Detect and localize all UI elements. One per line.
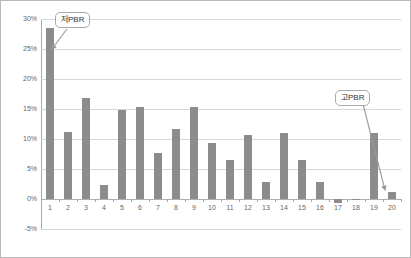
gridline-10	[41, 139, 401, 140]
gridline--5	[41, 229, 401, 230]
x-axis-tick-mark	[131, 199, 132, 202]
y-axis-tick-label: 0%	[9, 195, 37, 203]
bar	[280, 133, 288, 199]
x-axis-tick-mark	[149, 199, 150, 202]
x-axis-tick-label: 16	[311, 203, 329, 213]
x-axis-tick-mark	[185, 199, 186, 202]
x-axis-tick-label: 17	[329, 203, 347, 213]
x-axis-tick-label: 9	[185, 203, 203, 213]
y-axis-tick-label: 15%	[9, 105, 37, 113]
x-axis-tick-label: 7	[149, 203, 167, 213]
bar	[82, 98, 90, 199]
y-axis-tick-label: 5%	[9, 165, 37, 173]
x-axis-tick-mark	[329, 199, 330, 202]
x-axis-tick-label: 2	[59, 203, 77, 213]
x-axis-tick-mark	[275, 199, 276, 202]
x-axis-tick-label: 5	[113, 203, 131, 213]
x-axis-tick-mark	[311, 199, 312, 202]
annotation-label-high-pbr: 고PBR	[335, 90, 370, 106]
x-axis-tick-label: 1	[41, 203, 59, 213]
x-axis-tick-label: 19	[365, 203, 383, 213]
bar	[226, 160, 234, 199]
x-axis-tick-mark	[239, 199, 240, 202]
x-axis-tick-label: 3	[77, 203, 95, 213]
bar	[298, 160, 306, 199]
bar	[118, 110, 126, 199]
x-axis-tick-label: 8	[167, 203, 185, 213]
x-axis-tick-mark	[95, 199, 96, 202]
x-axis-tick-mark	[257, 199, 258, 202]
x-axis-tick-mark	[293, 199, 294, 202]
gridline-25	[41, 49, 401, 50]
x-axis-tick-mark	[383, 199, 384, 202]
bar	[136, 107, 144, 199]
bar	[64, 132, 72, 199]
bar	[370, 133, 378, 199]
bar	[172, 129, 180, 199]
x-axis-tick-mark	[113, 199, 114, 202]
x-axis-tick-label: 6	[131, 203, 149, 213]
x-axis-tick-label: 13	[257, 203, 275, 213]
x-axis-tick-mark	[365, 199, 366, 202]
bar	[388, 192, 396, 199]
x-axis-tick-mark	[347, 199, 348, 202]
x-axis-labels: 1234567891011121314151617181920	[41, 203, 401, 215]
x-axis-tick-label: 11	[221, 203, 239, 213]
gridline-15	[41, 109, 401, 110]
x-axis-tick-label: 10	[203, 203, 221, 213]
x-axis-tick-mark	[77, 199, 78, 202]
y-axis-tick-label: 10%	[9, 135, 37, 143]
y-axis-tick-label: 30%	[9, 15, 37, 23]
bar	[262, 182, 270, 199]
gridline-30	[41, 19, 401, 20]
bar	[244, 135, 252, 199]
x-axis-tick-mark	[401, 199, 402, 202]
x-axis-tick-mark	[203, 199, 204, 202]
chart-container: 30%25%20%15%10%5%0%-5% 12345678910111213…	[0, 0, 411, 258]
y-axis-labels: 30%25%20%15%10%5%0%-5%	[5, 19, 37, 229]
gridline-5	[41, 169, 401, 170]
gridline-20	[41, 79, 401, 80]
x-axis-tick-mark	[167, 199, 168, 202]
x-axis-tick-mark	[221, 199, 222, 202]
y-axis-tick-label: 20%	[9, 75, 37, 83]
x-axis-tick-label: 12	[239, 203, 257, 213]
x-axis-tick-mark	[41, 199, 42, 202]
bar	[208, 143, 216, 199]
y-axis-tick-label: -5%	[9, 225, 37, 233]
bar	[316, 182, 324, 199]
plot-area	[41, 19, 401, 229]
bar	[100, 185, 108, 199]
x-axis-tick-mark	[59, 199, 60, 202]
x-axis-tick-label: 15	[293, 203, 311, 213]
x-axis-tick-label: 20	[383, 203, 401, 213]
bar	[190, 107, 198, 199]
annotation-label-low-pbr: 저PBR	[55, 12, 90, 28]
x-axis-tick-label: 18	[347, 203, 365, 213]
bar	[154, 153, 162, 199]
x-axis-tick-label: 14	[275, 203, 293, 213]
y-axis-tick-label: 25%	[9, 45, 37, 53]
bar	[46, 28, 54, 199]
x-axis-tick-label: 4	[95, 203, 113, 213]
